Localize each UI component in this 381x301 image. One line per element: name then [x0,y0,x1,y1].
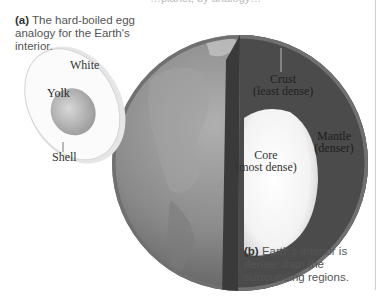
label-core-note: (most dense) [228,161,304,173]
label-shell: Shell [52,151,77,163]
label-white: White [70,59,99,71]
caption-b-text: Earth's interior is denser than the surr… [244,245,349,283]
caption-a: (a) The hard-boiled egg analogy for the … [15,14,135,53]
label-mantle-note: (denser) [304,142,364,154]
caption-b-label: (b) [244,245,259,257]
label-mantle: Mantle (denser) [304,130,364,154]
caption-a-text: The hard-boiled egg analogy for the Eart… [15,14,135,52]
label-crust-note: (least dense) [253,85,313,97]
label-yolk: Yolk [47,87,70,99]
label-crust: Crust (least dense) [253,73,313,97]
caption-b: (b) Earth's interior is denser than the … [244,245,369,284]
label-core: Core (most dense) [228,149,304,173]
caption-a-label: (a) [15,14,29,26]
